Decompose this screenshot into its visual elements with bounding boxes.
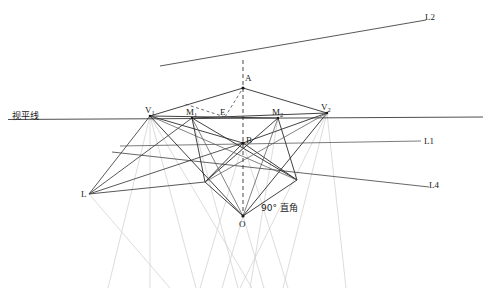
node-dots: [149, 86, 329, 217]
vanishing-point-label-v2: V2: [321, 103, 331, 112]
measure-point-label-m2: M2: [272, 108, 283, 117]
line-label-l4: L4: [429, 181, 439, 190]
point-label-b: B: [246, 136, 252, 145]
m2-subscript: 2: [280, 111, 283, 118]
v2-letter: V: [321, 102, 328, 112]
point-label-e: E: [220, 108, 226, 117]
point-l-rays: [89, 116, 243, 194]
m1-subscript: 1: [194, 111, 197, 118]
vanishing-point-label-v1: V1: [145, 106, 155, 115]
point-label-a: A: [245, 74, 252, 83]
perspective-diagram-page: 视平线 A B O E L V1 V2 M1 M2 L1 L2 L4 90° 直…: [0, 0, 491, 288]
line-l2-ray: [160, 20, 426, 66]
m1-letter: M: [186, 107, 194, 117]
v1-subscript: 1: [152, 109, 155, 116]
line-label-l1: L1: [424, 137, 434, 146]
v2-subscript: 2: [328, 106, 331, 113]
auxiliary-rays: [150, 113, 327, 216]
point-label-l: L: [81, 190, 87, 199]
point-label-o: O: [239, 220, 246, 229]
v1-letter: V: [145, 105, 152, 115]
line-label-l2: L2: [425, 13, 435, 22]
horizon-line-label: 视平线: [12, 112, 39, 121]
faint-construction-rays: [89, 113, 346, 288]
main-structure-lines: [150, 88, 327, 216]
measure-point-label-m1: M1: [186, 108, 197, 117]
m2-letter: M: [272, 107, 280, 117]
right-angle-annotation: 90° 直角: [261, 204, 298, 213]
